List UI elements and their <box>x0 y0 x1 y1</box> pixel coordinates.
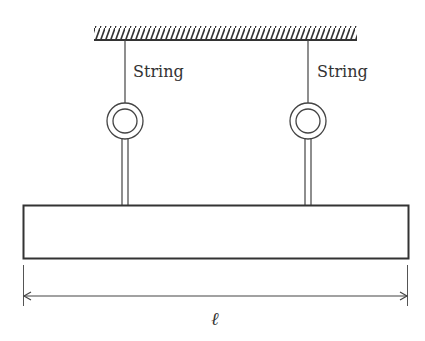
right-ring-inner <box>296 109 320 133</box>
suspended-bar-diagram: String String ℓ <box>0 0 425 341</box>
rigid-bar <box>24 206 409 259</box>
left-ring-inner <box>113 109 137 133</box>
right-hanger: String <box>290 40 368 205</box>
length-dimension: ℓ <box>24 265 408 329</box>
left-hanger: String <box>107 40 184 205</box>
ceiling-hatch <box>94 26 357 40</box>
right-string-label: String <box>317 62 368 81</box>
length-label: ℓ <box>211 308 219 329</box>
left-string-label: String <box>133 62 184 81</box>
ceiling-support <box>94 26 357 40</box>
left-hook-stem <box>122 138 128 205</box>
right-hook-stem <box>305 138 311 205</box>
